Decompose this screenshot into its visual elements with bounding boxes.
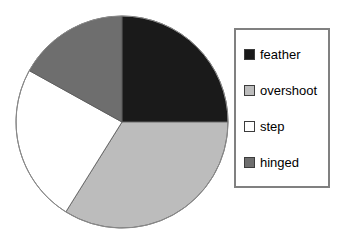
legend-label-hinged: hinged: [260, 156, 299, 169]
pie-svg: [15, 15, 229, 229]
legend-item-feather[interactable]: feather: [244, 44, 328, 64]
legend-label-feather: feather: [260, 48, 300, 61]
legend-item-overshoot[interactable]: overshoot: [244, 80, 328, 100]
pie-chart-figure: feather overshoot step hinged: [0, 0, 343, 243]
legend-swatch-overshoot: [244, 85, 255, 96]
legend-swatch-step: [244, 121, 255, 132]
legend-swatch-feather: [244, 49, 255, 60]
legend-label-step: step: [260, 120, 285, 133]
pie-chart-area: [15, 15, 229, 229]
legend-item-hinged[interactable]: hinged: [244, 152, 328, 172]
legend-item-step[interactable]: step: [244, 116, 328, 136]
pie-slice-feather[interactable]: [122, 16, 228, 122]
legend-swatch-hinged: [244, 157, 255, 168]
chart-legend: feather overshoot step hinged: [234, 28, 330, 188]
legend-label-overshoot: overshoot: [260, 84, 317, 97]
